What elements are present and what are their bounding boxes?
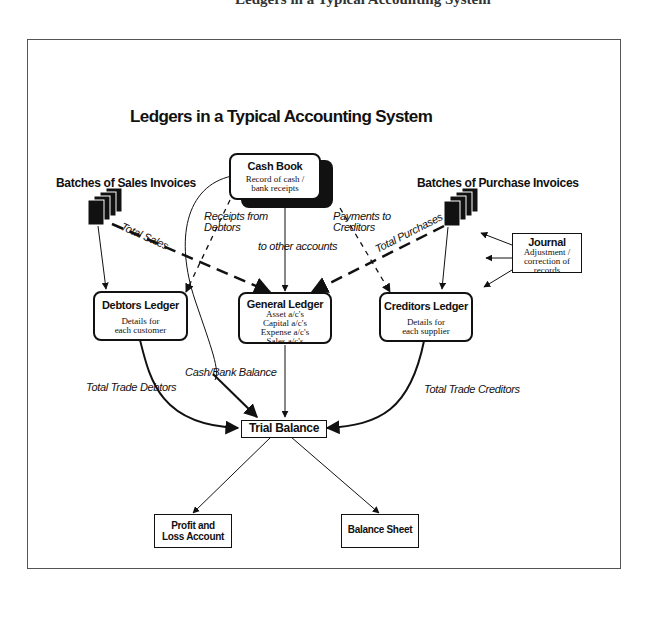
trial-balance-node: Trial Balance: [241, 420, 327, 438]
journal-subtitle: Adjustment / correction of records: [515, 248, 579, 275]
general-ledger-node: General Ledger Asset a/c's Capital a/c's…: [238, 292, 332, 344]
general-ledger-line: Sales a/c's: [240, 337, 330, 346]
total-trade-creditors-label: Total Trade Creditors: [424, 383, 520, 395]
trial-balance-title: Trial Balance: [242, 421, 326, 436]
creditors-ledger-subtitle: Details for each supplier: [399, 318, 453, 336]
to-other-accounts-label: to other accounts: [258, 240, 337, 252]
total-trade-debtors-label: Total Trade Debtors: [86, 381, 176, 393]
payments-to-creditors-label: Payments to Creditors: [333, 211, 403, 233]
debtors-ledger-title: Debtors Ledger: [95, 299, 186, 311]
creditors-ledger-title: Creditors Ledger: [381, 300, 471, 312]
cash-book-title: Cash Book: [231, 160, 319, 172]
receipts-from-debtors-label: Receipts from Debtors: [204, 211, 274, 233]
profit-loss-node: Profit and Loss Account: [154, 514, 232, 548]
diagram-title: Ledgers in a Typical Accounting System: [130, 107, 432, 127]
purchase-invoice-stack-icon: [444, 188, 478, 226]
cash-bank-balance-label: Cash/Bank Balance: [185, 366, 277, 378]
sales-invoice-stack-icon: [88, 188, 122, 225]
profit-loss-title: Profit and Loss Account: [161, 520, 225, 542]
balance-sheet-title: Balance Sheet: [342, 524, 418, 535]
sales-invoices-label: Batches of Sales Invoices: [56, 176, 196, 190]
debtors-ledger-subtitle: Details for each customer: [113, 317, 168, 335]
debtors-ledger-node: Debtors Ledger Details for each customer: [93, 291, 188, 341]
journal-node: Journal Adjustment / correction of recor…: [512, 233, 582, 273]
purchase-invoices-label: Batches of Purchase Invoices: [417, 176, 579, 190]
balance-sheet-node: Balance Sheet: [341, 514, 419, 548]
cash-book-subtitle: Record of cash / bank receipts: [239, 175, 311, 193]
cash-book-node: Cash Book Record of cash / bank receipts: [229, 153, 321, 200]
creditors-ledger-node: Creditors Ledger Details for each suppli…: [379, 292, 473, 342]
